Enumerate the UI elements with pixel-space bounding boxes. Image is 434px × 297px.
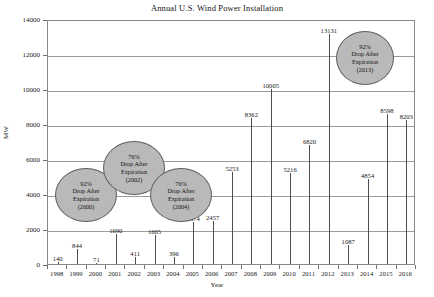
bar-value-label: 1087: [328, 238, 368, 246]
x-tick-mark: [105, 265, 106, 269]
bar: [348, 245, 349, 264]
bar-value-label: 8362: [231, 111, 271, 119]
y-tick-label: 4000: [0, 192, 40, 199]
annotation-text-percent: 76%: [175, 180, 186, 188]
bar: [251, 118, 252, 264]
bar-value-label: 4854: [348, 172, 388, 180]
bar-value-label: 140: [38, 255, 78, 263]
gridline: [48, 91, 414, 92]
x-tick-label: 2016: [390, 270, 420, 278]
annotation-text-percent: 76%: [128, 153, 139, 161]
bar-value-label: 8203: [386, 113, 426, 121]
y-tick-label: 6000: [0, 157, 40, 164]
x-tick-mark: [124, 265, 125, 269]
x-tick-mark: [338, 265, 339, 269]
bar: [368, 179, 369, 264]
bar-value-label: 411: [115, 250, 155, 258]
annotation-text-line1: Drop After: [168, 187, 195, 195]
x-tick-mark: [260, 265, 261, 269]
x-tick-mark: [66, 265, 67, 269]
annotation-text-line2: Expiration: [73, 195, 99, 203]
x-tick-mark: [221, 265, 222, 269]
x-tick-mark: [299, 265, 300, 269]
y-tick-label: 14000: [0, 17, 40, 24]
annotation-text-percent: 92%: [359, 43, 370, 51]
bar: [213, 221, 214, 264]
annotation-bubble-expiration-2004: 76%Drop AfterExpiration(2004): [150, 168, 212, 222]
annotation-text-year: (2004): [173, 203, 190, 211]
x-tick-mark: [396, 265, 397, 269]
x-tick-mark: [183, 265, 184, 269]
x-tick-mark: [415, 265, 416, 269]
x-tick-mark: [376, 265, 377, 269]
bar: [290, 173, 291, 264]
plot-area: 1408447116904111665396237424575253836210…: [47, 20, 415, 265]
x-tick-mark: [86, 265, 87, 269]
annotation-text-percent: 92%: [80, 180, 91, 188]
y-tick-label: 2000: [0, 227, 40, 234]
bar: [193, 222, 194, 264]
gridline: [48, 126, 414, 127]
annotation-text-year: (2002): [126, 176, 143, 184]
y-tick-label: 8000: [0, 122, 40, 129]
annotation-text-year: (2013): [357, 66, 374, 74]
bar-value-label: 5216: [270, 166, 310, 174]
x-tick-mark: [47, 265, 48, 269]
y-tick-label: 12000: [0, 52, 40, 59]
y-tick-label: 0: [0, 262, 40, 269]
x-tick-mark: [357, 265, 358, 269]
annotation-text-line1: Drop After: [73, 187, 100, 195]
bar-value-label: 13131: [309, 27, 349, 35]
bar-value-label: 71: [76, 256, 116, 264]
bar: [174, 257, 175, 264]
y-tick-label: 10000: [0, 87, 40, 94]
x-tick-mark: [144, 265, 145, 269]
bar-value-label: 844: [57, 242, 97, 250]
x-tick-mark: [279, 265, 280, 269]
annotation-text-line1: Drop After: [352, 50, 379, 58]
bar-value-label: 1690: [96, 227, 136, 235]
bar: [406, 120, 407, 264]
bar-value-label: 5253: [212, 165, 252, 173]
bar: [271, 89, 272, 264]
x-tick-mark: [318, 265, 319, 269]
annotation-text-line1: Drop After: [121, 160, 148, 168]
annotation-text-line2: Expiration: [121, 168, 147, 176]
annotation-text-line2: Expiration: [352, 58, 378, 66]
bar: [329, 34, 330, 264]
bar: [232, 172, 233, 264]
chart-title: Annual U.S. Wind Power Installation: [0, 3, 434, 13]
annotation-text-year: (2000): [78, 203, 95, 211]
bar-value-label: 1665: [135, 228, 175, 236]
bar-value-label: 396: [154, 250, 194, 258]
x-tick-mark: [241, 265, 242, 269]
x-tick-mark: [163, 265, 164, 269]
annotation-text-line2: Expiration: [168, 195, 194, 203]
x-axis-title: Year: [0, 281, 434, 289]
bar: [135, 257, 136, 264]
bar: [309, 145, 310, 264]
bar: [387, 114, 388, 264]
annotation-bubble-expiration-2013: 92%Drop AfterExpiration(2013): [336, 31, 394, 85]
bar-value-label: 10005: [251, 82, 291, 90]
x-tick-mark: [202, 265, 203, 269]
bar-value-label: 6820: [289, 138, 329, 146]
wind-power-installation-chart: Annual U.S. Wind Power Installation MW Y…: [0, 0, 434, 297]
